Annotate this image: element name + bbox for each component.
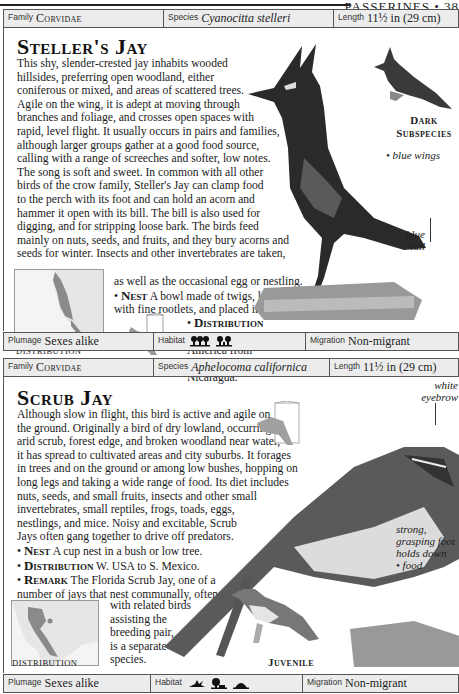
plumage-cell: Plumage Sexes alike [4,675,151,692]
top-rule [0,4,350,6]
distribution-map [14,269,104,335]
plumage-label: Plumage [8,677,42,687]
habitat-label: Habitat [158,335,185,345]
length-value: 11½ in (29 cm) [363,360,437,375]
strong-foot-annotation: strong, grasping foot holds down • food [396,523,455,571]
map-caption: DISTRIBUTION [12,658,78,668]
family-cell: Family Corvidae [4,359,154,376]
plumage-value: Sexes alike [45,676,99,691]
remark-label: Remark [24,572,68,587]
plumage-label: Plumage [8,335,42,345]
annotation-text: food [403,559,423,571]
species-cell: Species Cyanocitta stelleri [164,10,334,27]
entry-footer-bar: Plumage Sexes alike Habitat Migration No… [3,674,459,693]
entry-footer-bar: Plumage Sexes alike Habitat Migration No… [3,332,459,351]
migration-value: Non-migrant [348,334,410,349]
entry-header-bar: Family Corvidae Species Cyanocitta stell… [3,9,459,28]
annotation-text: eyebrow [402,391,458,403]
woodland-edge-icon [211,678,227,689]
habitat-cell: Habitat [154,333,306,350]
family-label: Family [8,12,33,22]
migration-cell: Migration Non-migrant [303,675,458,692]
family-label: Family [8,361,33,371]
entry-panel-scrub-jay: Scrub Jay Although slow in flight, this … [3,377,459,673]
leader-line [435,403,436,425]
forest-icon [190,336,210,347]
annotation-text: blue [406,228,425,240]
urban-icon [233,678,249,689]
annotation-text: grasping foot [396,535,455,547]
blue-tail-annotation: blue tail [406,228,425,252]
plumage-value: Sexes alike [45,334,99,349]
scrub-icon [189,678,205,689]
inset-caption: Juvenile [256,656,326,669]
distribution-map [11,600,99,666]
habitat-label: Habitat [155,677,182,687]
juvenile-illustration [229,583,321,647]
nest-label: Nest [24,543,50,558]
family-value: Corvidae [36,11,82,26]
family-cell: Family Corvidae [4,10,164,27]
length-label: Length [338,12,364,22]
annotation-text: tail [406,240,425,252]
annotation-text: white [402,379,458,391]
plumage-cell: Plumage Sexes alike [4,333,154,350]
leader-line [430,218,431,242]
blue-wings-annotation: • blue wings [386,149,440,161]
inset-caption: Dark Subspecies [384,114,459,140]
migration-label: Migration [310,335,345,345]
nest-label: Nest [121,288,147,303]
annotation-text: holds down [396,547,455,559]
white-eyebrow-annotation: white eyebrow [402,379,458,403]
length-value: 11½ in (29 cm) [367,11,441,26]
length-cell: Length 11½ in (29 cm) [334,10,458,27]
caption-line: Dark [384,114,459,127]
length-label: Length [334,361,360,371]
north-america-map-icon [12,601,99,666]
length-cell: Length 11½ in (29 cm) [330,359,458,376]
species-label: Species [158,361,188,371]
annotation-text: strong, [396,523,455,535]
migration-cell: Migration Non-migrant [306,333,458,350]
annotation-text: blue wings [393,149,440,161]
caption-line: Subspecies [384,127,459,140]
distribution-label: Distribution [24,558,93,573]
north-america-map-icon [15,270,104,335]
family-value: Corvidae [36,360,82,375]
migration-label: Migration [307,677,342,687]
species-value: Cyanocitta stelleri [201,11,290,26]
dark-subspecies-illustration [366,43,456,111]
species-value: Aphelocoma californica [191,360,307,375]
species-label: Species [168,12,198,22]
entry-panel-stellers-jay: Steller's Jay This shy, slender-crested … [3,28,459,331]
migration-value: Non-migrant [345,676,407,691]
habitat-cell: Habitat [151,675,303,692]
woodland-icon [216,336,232,347]
species-cell: Species Aphelocoma californica [154,359,330,376]
entry-header-bar: Family Corvidae Species Aphelocoma calif… [3,358,459,377]
